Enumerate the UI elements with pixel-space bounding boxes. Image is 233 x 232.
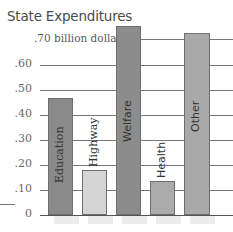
- y-tick-50: .50: [2, 82, 32, 95]
- y-tick-60: .60: [2, 57, 32, 70]
- y-tick-10: .10: [2, 182, 32, 195]
- bar-shadow: [54, 216, 79, 224]
- side-stub-line: [0, 204, 15, 205]
- bar-label-health: Health: [155, 142, 168, 178]
- bar-shadow: [88, 216, 113, 224]
- bar-shadow: [190, 216, 215, 224]
- bar-shadow: [156, 216, 181, 224]
- bar-shadow: [122, 216, 147, 224]
- gridline-70: [126, 39, 233, 40]
- y-tick-40: .40: [2, 107, 32, 120]
- bar-label-highway: Highway: [87, 118, 100, 167]
- bar-label-welfare: Welfare: [121, 100, 134, 142]
- bar-label-other: Other: [189, 101, 202, 132]
- y-tick-30: .30: [2, 132, 32, 145]
- y-tick-20: .20: [2, 157, 32, 170]
- y-tick-0: 0: [2, 207, 32, 220]
- chart-title: State Expenditures: [7, 8, 132, 24]
- y-axis-top-label: .70 billion dollars: [34, 32, 127, 44]
- bar-health: [150, 181, 175, 215]
- bar-highway: [82, 170, 107, 215]
- bar-label-education: Education: [53, 126, 66, 183]
